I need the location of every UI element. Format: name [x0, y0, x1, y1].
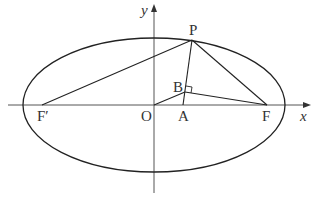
point-P-label: P	[189, 23, 197, 38]
y-axis-arrow-icon	[151, 4, 157, 12]
focus-F-label: F	[262, 109, 270, 124]
focus-F-prime-label: F′	[37, 109, 49, 124]
segment-FprimeP	[42, 40, 192, 105]
segment-PA	[183, 40, 192, 105]
point-B-label: B	[173, 80, 183, 95]
ellipse-diagram: y x O P B A F F′	[0, 0, 317, 203]
y-axis-label: y	[141, 3, 148, 18]
diagram-canvas	[0, 0, 317, 203]
point-A-label: A	[178, 109, 189, 124]
origin-label: O	[141, 109, 152, 124]
x-axis-label: x	[300, 109, 307, 124]
